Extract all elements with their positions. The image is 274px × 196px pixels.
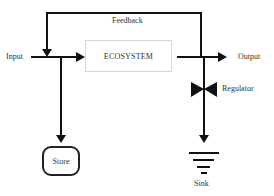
regulator-label: Regulator — [222, 84, 254, 94]
feedback-label: Feedback — [112, 16, 143, 26]
output-arrowhead-icon — [218, 52, 227, 62]
ecosystem-label: ECOSYSTEM — [104, 52, 153, 61]
input-arrowhead-icon — [76, 52, 85, 62]
store-arrowhead-icon — [56, 135, 66, 143]
store-node: Store — [42, 146, 80, 176]
sink-label: Sink — [194, 179, 209, 189]
output-label: Output — [238, 52, 260, 62]
input-label: Input — [6, 52, 23, 62]
sink-arrowhead-icon — [199, 135, 209, 143]
ecosystem-node: ECOSYSTEM — [85, 40, 172, 72]
feedback-arrowhead-icon — [42, 49, 52, 57]
sink-ground-icon — [189, 153, 219, 173]
store-label: Store — [53, 157, 70, 166]
